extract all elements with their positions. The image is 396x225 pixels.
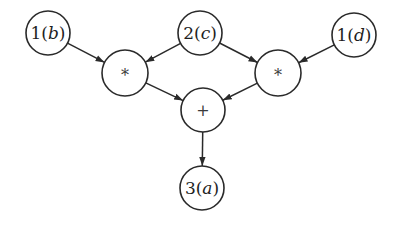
node-a: 3(a)	[180, 166, 224, 210]
node-label: 1(b)	[31, 23, 66, 43]
arrow-icon	[146, 83, 183, 101]
multiply-operator: *	[274, 66, 282, 85]
diagram-svg: 1(b)2(c)1(d)**+3(a)	[0, 0, 396, 225]
edge-c-to-mul1	[145, 43, 180, 62]
node-label: 3(a)	[185, 178, 219, 198]
node-c: 2(c)	[178, 11, 222, 55]
expression-dag-diagram: 1(b)2(c)1(d)**+3(a)	[0, 0, 396, 225]
node-label: 2(c)	[183, 23, 217, 43]
add-operator: +	[196, 101, 209, 120]
multiply-operator: *	[121, 66, 129, 85]
edge-b-to-mul1	[68, 43, 105, 62]
node-mul1: *	[102, 50, 148, 96]
arrow-icon	[220, 43, 258, 62]
node-d: 1(d)	[332, 13, 376, 57]
edge-mul1-to-add	[146, 83, 183, 101]
arrow-icon	[299, 45, 335, 63]
edge-c-to-mul2	[220, 43, 258, 62]
node-add: +	[181, 88, 225, 132]
node-mul2: *	[255, 50, 301, 96]
arrow-icon	[223, 83, 258, 100]
edge-mul2-to-add	[223, 83, 258, 100]
edge-d-to-mul2	[299, 45, 335, 63]
nodes: 1(b)2(c)1(d)**+3(a)	[26, 11, 376, 210]
arrow-icon	[68, 43, 105, 62]
arrow-icon	[145, 43, 180, 62]
node-b: 1(b)	[26, 11, 70, 55]
node-label: 1(d)	[337, 25, 372, 45]
